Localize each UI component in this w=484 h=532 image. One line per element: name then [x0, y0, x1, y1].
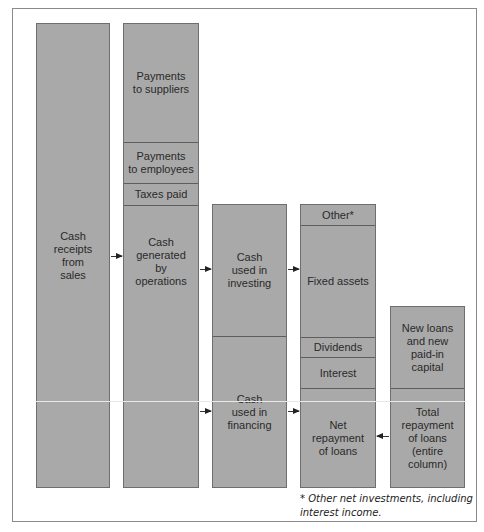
segment-cash-generated-by-operations: Cash generated by operations — [124, 205, 198, 487]
segment-cash-used-in-financing: Cash used in financing — [213, 336, 286, 487]
arrow-total-repayment-to-net-repayment — [377, 436, 389, 437]
segment-payments-to-suppliers: Payments to suppliers — [124, 24, 198, 142]
label-cash-receipts-from-sales: Cash receipts from sales — [37, 230, 109, 282]
segment-payments-to-employees: Payments to employees — [124, 142, 198, 183]
arrow-sales-to-operations — [111, 256, 122, 257]
scan-line — [36, 401, 466, 402]
column-breakdown: Other* Fixed assets Dividends Interest N… — [300, 204, 376, 488]
footnote: * Other net investments, including inter… — [300, 492, 473, 520]
segment-taxes-paid: Taxes paid — [124, 183, 198, 205]
column-operations: Payments to suppliers Payments to employ… — [123, 23, 199, 488]
segment-net-repayment-of-loans: Net repayment of loans — [301, 388, 375, 487]
arrow-investing-to-fixed-assets — [288, 269, 299, 270]
segment-dividends: Dividends — [301, 337, 375, 357]
segment-total-repayment-of-loans: Total repayment of loans (entire column) — [391, 388, 464, 487]
column-loans: New loans and new paid-in capital Total … — [390, 306, 465, 488]
segment-cash-used-in-investing: Cash used in investing — [213, 205, 286, 336]
column-cash-uses: Cash used in investing Cash used in fina… — [212, 204, 287, 488]
segment-new-loans-and-capital: New loans and new paid-in capital — [391, 307, 464, 388]
segment-interest: Interest — [301, 357, 375, 388]
column-cash-receipts: Cash receipts from sales — [36, 23, 110, 488]
arrow-operations-to-investing — [200, 269, 211, 270]
segment-fixed-assets: Fixed assets — [301, 225, 375, 337]
segment-other: Other* — [301, 205, 375, 225]
arrow-financing-to-net-repayment — [288, 411, 299, 412]
arrow-operations-to-financing — [200, 411, 211, 412]
